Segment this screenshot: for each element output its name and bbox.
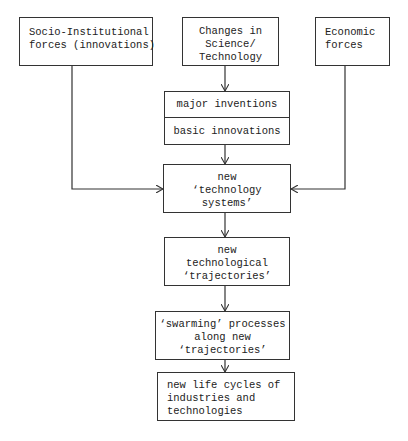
box-text-line: technological	[165, 257, 289, 270]
box-text-line: Changes in	[183, 25, 278, 38]
swarming-processes-box: ‘swarming’ processes along new ‘trajecto…	[155, 311, 290, 360]
box-text-line: ‘swarming’ processes	[156, 318, 289, 331]
box-text-line: forces	[325, 39, 389, 52]
technology-systems-box: new ‘technology systems’	[163, 164, 291, 213]
inventions-innovations-box: major inventions basic innovations	[164, 91, 290, 145]
box-text-line: ‘technology	[164, 184, 290, 197]
box-text-line: ‘trajectories’	[165, 270, 289, 283]
box-text-line: Technology	[183, 51, 278, 64]
box-text-line: along new	[156, 331, 289, 344]
box-text-line: technologies	[167, 405, 294, 418]
box-text-line: new	[165, 244, 289, 257]
major-inventions-cell: major inventions	[165, 92, 289, 117]
box-text-line: ‘trajectories’	[156, 344, 289, 357]
box-text-line: systems’	[164, 197, 290, 210]
box-text-line: forces (innovations)	[29, 39, 152, 52]
life-cycles-box: new life cycles of industries and techno…	[157, 372, 295, 421]
box-text-line: Economic	[325, 26, 389, 39]
box-text-line: Science/	[183, 38, 278, 51]
box-text-line: new	[164, 171, 290, 184]
science-technology-box: Changes in Science/ Technology	[182, 17, 279, 66]
box-text-line: industries and	[167, 392, 294, 405]
box-text-line: new life cycles of	[167, 379, 294, 392]
economic-forces-box: Economic forces	[315, 17, 390, 66]
basic-innovations-cell: basic innovations	[165, 117, 289, 144]
socio-institutional-forces-box: Socio-Institutional forces (innovations)	[19, 17, 153, 66]
box-text-line: Socio-Institutional	[29, 26, 152, 39]
technological-trajectories-box: new technological ‘trajectories’	[164, 237, 290, 286]
